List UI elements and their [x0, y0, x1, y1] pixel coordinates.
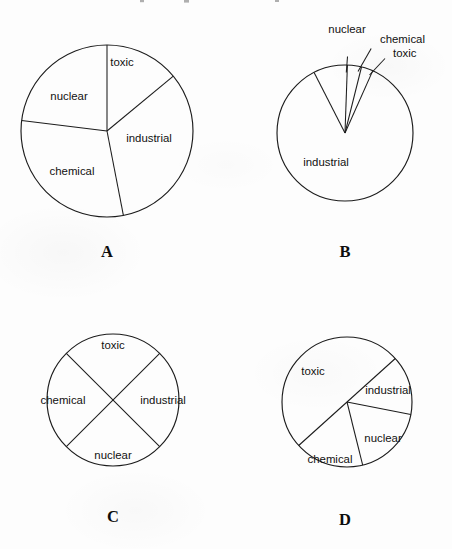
pie-d-divider-chemical-toxic — [299, 402, 347, 446]
pie-a-label-industrial: industrial — [126, 132, 172, 144]
pie-b-label-industrial: industrial — [303, 156, 349, 168]
panel-a: toxic nuclear chemical industrial A — [21, 45, 193, 261]
pie-d-label-toxic: toxic — [301, 365, 325, 377]
pie-d-label-nuclear: nuclear — [364, 432, 402, 444]
panel-b: nuclear chemical toxic industrial B — [277, 23, 425, 261]
pie-d-caption: D — [339, 510, 351, 529]
pie-b-label-chemical: chemical — [380, 33, 425, 45]
pie-d-label-chemical: chemical — [308, 453, 353, 465]
pie-a-label-nuclear: nuclear — [50, 90, 88, 102]
pie-b-divider-industrial-nuclear — [314, 72, 345, 133]
pie-c-label-industrial: industrial — [140, 394, 186, 406]
pie-a-divider-industrial-chemical — [107, 131, 123, 215]
panel-c: toxic chemical industrial nuclear C — [41, 334, 186, 526]
pie-a-label-toxic: toxic — [110, 56, 134, 68]
panel-d: toxic industrial nuclear chemical D — [282, 337, 412, 529]
top-edge-scan-artifact — [140, 0, 279, 3]
pie-b-label-nuclear: nuclear — [328, 23, 366, 35]
pie-c-caption: C — [107, 507, 119, 526]
pie-a-divider-toxic-industrial — [107, 76, 173, 131]
pie-c-label-nuclear: nuclear — [94, 449, 132, 461]
pie-b-divider-toxic-industrial — [345, 71, 373, 133]
pie-b-label-toxic: toxic — [393, 47, 417, 59]
four-pie-charts-figure: toxic nuclear chemical industrial A nucl… — [0, 0, 452, 549]
pie-c-label-chemical: chemical — [41, 394, 86, 406]
pie-d-divider-industrial-nuclear — [347, 402, 411, 414]
pie-a-divider-chemical-nuclear — [22, 121, 107, 132]
figure-page: toxic nuclear chemical industrial A nucl… — [0, 0, 452, 549]
pie-a-caption: A — [101, 242, 113, 261]
pie-d-label-industrial: industrial — [365, 384, 411, 396]
pie-b-caption: B — [339, 242, 350, 261]
pie-a-label-chemical: chemical — [50, 165, 95, 177]
pie-c-label-toxic: toxic — [101, 339, 125, 351]
